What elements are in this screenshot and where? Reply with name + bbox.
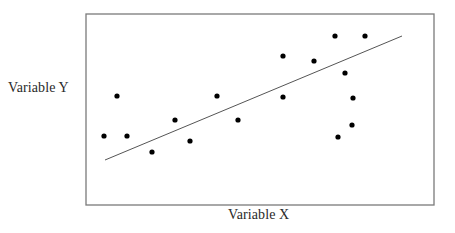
y-axis-label: Variable Y — [8, 80, 69, 96]
data-points — [101, 33, 367, 154]
trend-line — [105, 36, 402, 160]
data-point — [280, 94, 285, 99]
data-point — [214, 93, 219, 98]
plot-frame — [86, 14, 434, 205]
data-point — [335, 134, 340, 139]
data-point — [332, 33, 337, 38]
data-point — [114, 93, 119, 98]
data-point — [172, 117, 177, 122]
data-point — [101, 133, 106, 138]
data-point — [311, 58, 316, 63]
data-point — [187, 138, 192, 143]
data-point — [362, 33, 367, 38]
data-point — [350, 95, 355, 100]
data-point — [124, 133, 129, 138]
x-axis-label: Variable X — [228, 207, 289, 223]
scatter-plot — [0, 0, 455, 233]
data-point — [342, 70, 347, 75]
data-point — [235, 117, 240, 122]
data-point — [280, 53, 285, 58]
data-point — [349, 122, 354, 127]
data-point — [149, 149, 154, 154]
